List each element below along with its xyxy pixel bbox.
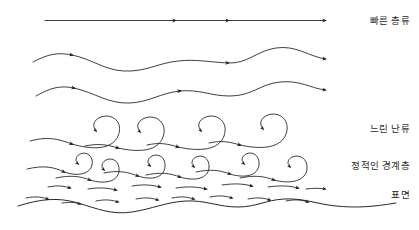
eddy-large-1 — [30, 116, 120, 148]
flow-field-illustration — [0, 0, 419, 230]
boundary-arrow-row-lower — [26, 196, 308, 204]
eddy-small-3 — [104, 155, 165, 178]
surface-wall-line — [18, 199, 396, 213]
eddy-small-4 — [146, 156, 209, 179]
eddy-small-6 — [240, 156, 307, 182]
eddy-small-2 — [56, 159, 119, 182]
boundary-arrow-row-upper — [48, 184, 325, 190]
eddy-large-2 — [85, 117, 164, 150]
diagram-canvas: 빠른 층류 느린 난류 정적인 경계층 표면 — [0, 0, 419, 230]
streamline-wavy-2 — [36, 82, 325, 103]
eddy-small-1 — [27, 153, 92, 174]
streamline-wavy-1 — [33, 47, 325, 71]
eddy-large-3 — [147, 116, 225, 149]
eddy-small-5 — [196, 153, 259, 176]
